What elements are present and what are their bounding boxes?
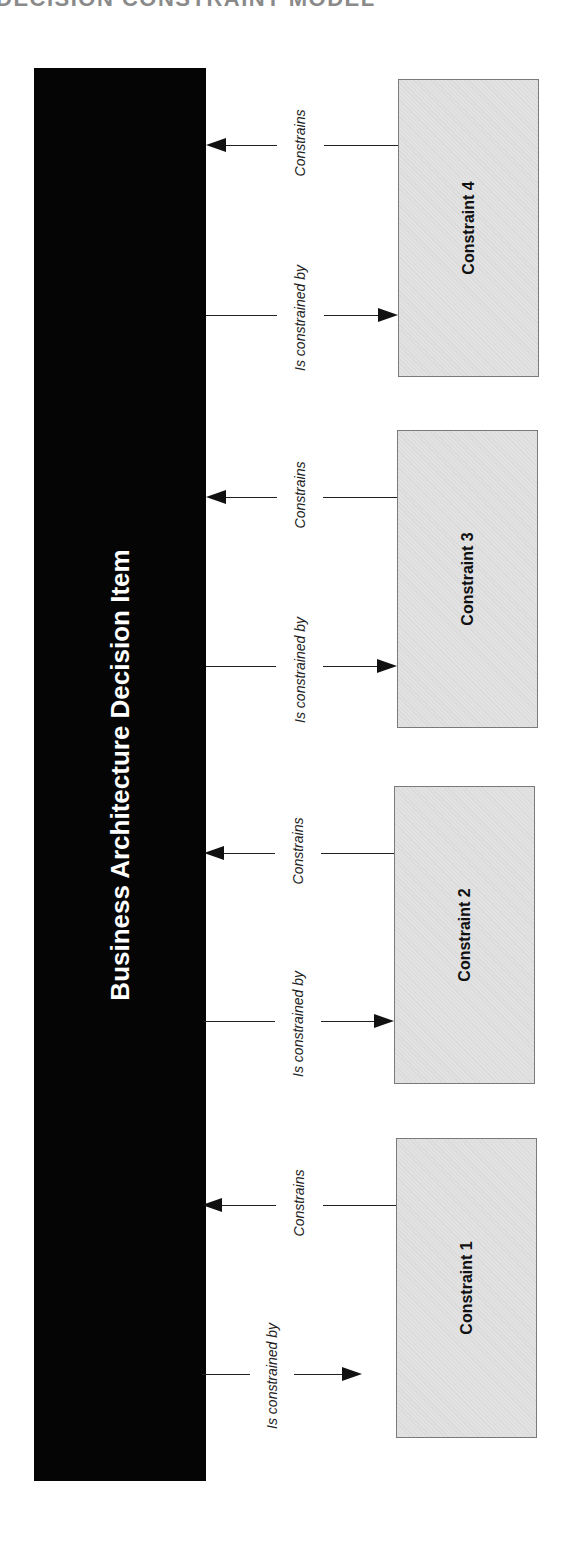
constraint-box-2: Constraint 2: [394, 786, 535, 1084]
connector-line: [226, 497, 277, 498]
arrowhead-left-icon: [206, 490, 226, 504]
business-architecture-decision-item: Business Architecture Decision Item: [34, 68, 206, 1481]
constraint-box-4: Constraint 4: [398, 79, 539, 377]
connector-line: [222, 1205, 276, 1206]
arrowhead-right-icon: [342, 1367, 362, 1381]
connector-line: [323, 497, 397, 498]
arrowhead-left-icon: [202, 1198, 222, 1212]
connector-line: [321, 853, 394, 854]
connector-line: [206, 315, 277, 316]
connector-line: [323, 1205, 396, 1206]
page-title: DECISION CONSTRAINT MODEL: [0, 0, 573, 10]
connector-line: [324, 145, 398, 146]
constraint-label: Constraint 4: [460, 181, 478, 274]
relation-label-constrains: Constrains: [292, 110, 308, 177]
connector-line: [204, 1021, 275, 1022]
relation-label-constrains: Constrains: [292, 462, 308, 529]
constraint-box-1: Constraint 1: [396, 1138, 537, 1438]
relation-label-constrains: Constrains: [291, 1170, 307, 1237]
relation-label-is-constrained-by: Is constrained by: [292, 617, 308, 723]
connector-line: [321, 1021, 374, 1022]
connector-line: [323, 666, 377, 667]
relation-label-is-constrained-by: Is constrained by: [292, 265, 308, 371]
constraint-box-3: Constraint 3: [397, 430, 538, 728]
relation-label-is-constrained-by: Is constrained by: [290, 971, 306, 1077]
relation-label-constrains: Constrains: [290, 818, 306, 885]
arrowhead-right-icon: [378, 308, 398, 322]
relation-label-is-constrained-by: Is constrained by: [264, 1323, 280, 1429]
connector-line: [226, 145, 277, 146]
constraint-label: Constraint 2: [456, 888, 474, 981]
connector-line: [206, 666, 276, 667]
connector-line: [224, 853, 275, 854]
decision-item-label: Business Architecture Decision Item: [105, 549, 136, 1000]
arrowhead-right-icon: [374, 1014, 394, 1028]
arrowhead-left-icon: [204, 846, 224, 860]
constraint-label: Constraint 1: [458, 1241, 476, 1334]
arrowhead-left-icon: [206, 138, 226, 152]
arrowhead-right-icon: [377, 659, 397, 673]
constraint-label: Constraint 3: [459, 532, 477, 625]
connector-line: [202, 1374, 250, 1375]
connector-line: [294, 1374, 342, 1375]
connector-line: [324, 315, 378, 316]
